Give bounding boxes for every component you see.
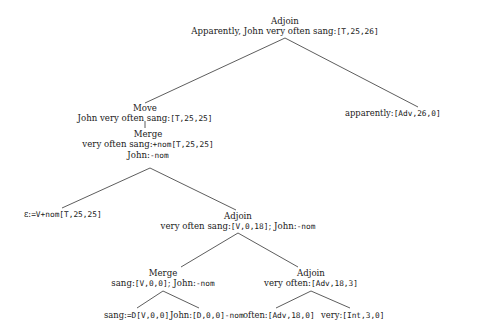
- node-op: Adjoin: [264, 268, 358, 278]
- mover-features: -nom: [150, 151, 169, 160]
- mover-features: -nom: [196, 279, 215, 288]
- leaf-text: apparently:: [345, 108, 394, 118]
- node-text: sang:: [111, 278, 134, 288]
- node-label: John very often sang:[T,25,25]: [78, 113, 213, 124]
- node-merge-low: Merge sang:[V,0,0]; John:-nom: [111, 268, 214, 289]
- node-features: [T,25,25]: [170, 114, 212, 123]
- leaf-features: =V+nom[T,25,25]: [31, 210, 101, 219]
- leaf-features: [Adv,18,0]: [268, 311, 315, 320]
- leaf-text: very:: [321, 310, 342, 320]
- edge-adjoin-merge-low: [181, 233, 238, 267]
- leaf-often: often:[Adv,18,0]: [243, 310, 315, 321]
- leaf-text: sang:: [104, 310, 127, 320]
- node-label: very often sang:+nom[T,25,25]: [82, 139, 213, 150]
- node-label: very often sang:[V,0,18]; John:-nom: [161, 221, 316, 232]
- leaf-very: very:[Int,3,0]: [321, 310, 385, 321]
- leaf-features: [D,0,0]-nom: [192, 311, 244, 320]
- node-op: Move: [78, 103, 213, 113]
- node-op: Merge: [111, 268, 214, 278]
- mover-features: -nom: [297, 222, 316, 231]
- edge-merge-epsilon: [62, 168, 150, 208]
- leaf-john: John:[D,0,0]-nom: [170, 310, 244, 321]
- node-label: sang:[V,0,0]; John:-nom: [111, 278, 214, 289]
- node-mover: John:-nom: [82, 150, 213, 161]
- node-op: Merge: [82, 129, 213, 139]
- edge-merge-low-john: [163, 291, 199, 308]
- node-root-adjoin: Adjoin Apparently, John very often sang:…: [191, 16, 378, 37]
- mover-text: John:: [127, 150, 150, 160]
- node-op: Adjoin: [161, 211, 316, 221]
- leaf-text: John:: [170, 310, 192, 320]
- mover-text: ; John:: [268, 221, 296, 231]
- node-features: +nom[T,25,25]: [153, 140, 214, 149]
- node-label: very often:[Adv,18,3]: [264, 278, 358, 289]
- node-label: Apparently, John very often sang:[T,25,2…: [191, 26, 378, 37]
- node-text: very often sang:: [82, 139, 152, 149]
- node-features: [V,0,0]: [135, 279, 168, 288]
- node-adjoin-low: Adjoin very often:[Adv,18,3]: [264, 268, 358, 289]
- leaf-epsilon: ε:=V+nom[T,25,25]: [24, 209, 102, 220]
- node-text: Apparently, John very often sang:: [191, 26, 336, 36]
- node-adjoin-mid: Adjoin very often sang:[V,0,18]; John:-n…: [161, 211, 316, 232]
- edge-merge-adjoin: [150, 168, 236, 210]
- mover-text: ; John:: [168, 278, 196, 288]
- leaf-sang: sang:=D[V,0,0]: [104, 310, 169, 321]
- node-text: very often:: [264, 278, 311, 288]
- edge-adjoin-adjoin-low: [238, 233, 298, 267]
- edge-root-apparently: [285, 38, 418, 107]
- edge-root-move: [145, 38, 285, 103]
- edge-merge-low-sang: [137, 291, 163, 308]
- leaf-features: [Adv,26,0]: [394, 109, 441, 118]
- node-op: Adjoin: [191, 16, 378, 26]
- leaf-features: =D[V,0,0]: [127, 311, 169, 320]
- node-text: John very often sang:: [78, 113, 171, 123]
- tree-edges: [0, 0, 491, 336]
- node-move: Move John very often sang:[T,25,25]: [78, 103, 213, 124]
- node-features: [V,0,18]: [231, 222, 269, 231]
- node-features: [T,25,26]: [336, 27, 378, 36]
- node-features: [Adv,18,3]: [311, 279, 358, 288]
- node-merge-top: Merge very often sang:+nom[T,25,25] John…: [82, 129, 213, 161]
- node-text: very often sang:: [161, 221, 231, 231]
- edge-adjoin-low-very: [311, 291, 350, 308]
- edge-adjoin-low-often: [276, 291, 311, 308]
- leaf-features: [Int,3,0]: [342, 311, 384, 320]
- leaf-text: often:: [243, 310, 268, 320]
- leaf-apparently: apparently:[Adv,26,0]: [345, 108, 441, 119]
